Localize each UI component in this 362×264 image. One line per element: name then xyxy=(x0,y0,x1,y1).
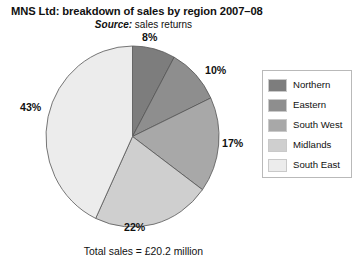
legend-label-northern: Northern xyxy=(293,80,330,90)
legend-label-midlands: Midlands xyxy=(293,140,331,150)
legend-swatch-icon-midlands xyxy=(268,139,287,152)
legend-label-eastern: Eastern xyxy=(293,100,326,110)
legend-swatch-icon-northern xyxy=(268,79,287,92)
chart-subtitle: Source: sales returns xyxy=(11,19,276,30)
legend-item-midlands: Midlands xyxy=(268,135,351,155)
pie-graphic xyxy=(44,45,222,231)
source-value: sales returns xyxy=(132,19,192,30)
slice-value-label-eastern: 10% xyxy=(205,64,226,76)
slice-value-label-northern: 8% xyxy=(142,31,157,43)
slice-value-label-midlands: 22% xyxy=(124,221,145,233)
legend-item-northern: Northern xyxy=(268,75,351,95)
legend-item-eastern: Eastern xyxy=(268,95,351,115)
source-label: Source: xyxy=(95,19,132,30)
chart-legend: Northern Eastern South West Midlands Sou… xyxy=(262,70,352,178)
legend-label-south-west: South West xyxy=(293,120,342,130)
legend-item-south-east: South East xyxy=(268,155,351,175)
legend-swatch-icon-eastern xyxy=(268,99,287,112)
slice-value-label-south-east: 43% xyxy=(20,101,41,113)
legend-swatch-icon-south-west xyxy=(268,119,287,132)
chart-title: MNS Ltd: breakdown of sales by region 20… xyxy=(11,5,291,17)
pie-slices-group xyxy=(46,46,219,227)
legend-item-south-west: South West xyxy=(268,115,351,135)
pie-chart-figure: MNS Ltd: breakdown of sales by region 20… xyxy=(0,0,362,264)
legend-swatch-icon-south-east xyxy=(268,159,287,172)
slice-value-label-south-west: 17% xyxy=(222,137,243,149)
chart-caption-total-sales: Total sales = £20.2 million xyxy=(11,246,276,257)
legend-label-south-east: South East xyxy=(293,160,340,170)
